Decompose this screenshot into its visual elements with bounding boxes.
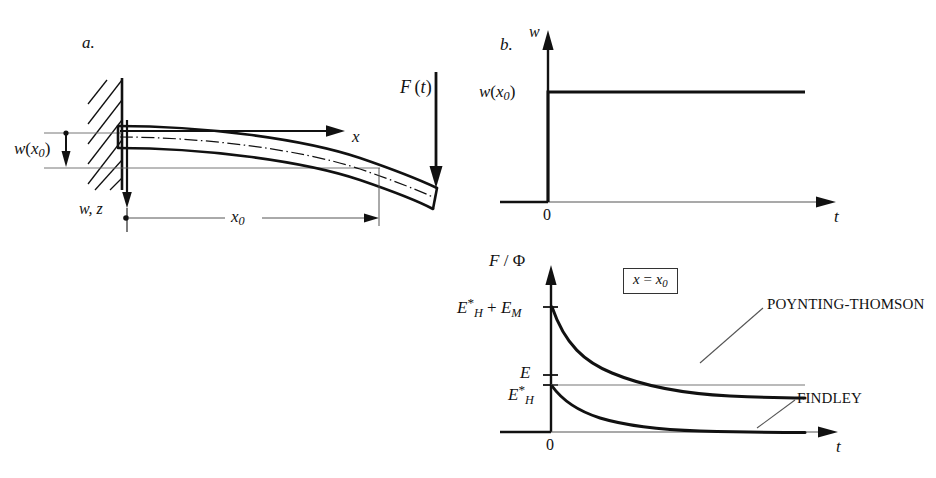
- panel-c-origin-label: 0: [546, 437, 554, 453]
- force-label-paren-open: (: [411, 77, 421, 97]
- panel-c-y-axis-label-phi: Φ: [513, 251, 525, 270]
- panel-c-curve-findley: [552, 386, 805, 433]
- deflection-arrow-head: [62, 151, 71, 167]
- panel-c-y-axis-label-slash: /: [499, 251, 512, 270]
- panel-c-tick-label-top: E*H + EM: [457, 296, 522, 319]
- x0-dim-label-x: x: [231, 207, 239, 226]
- panel-b-origin-label: 0: [543, 207, 551, 223]
- panel-a-force-label: F (t): [400, 78, 432, 96]
- force-label-F: F: [400, 77, 411, 97]
- panel-b-tag: b.: [500, 36, 513, 53]
- panel-c-x-axis-label: t: [836, 438, 841, 455]
- panel-b-drawing: [500, 30, 836, 208]
- panel-c-box-annotation: x = x0: [623, 268, 678, 294]
- x0-dim-origin-dot: [123, 215, 129, 221]
- tick-top-E2: E: [501, 298, 511, 317]
- panel-a-deflection-label: w(x0): [14, 140, 50, 160]
- panel-b-x-axis-arrowhead: [816, 196, 836, 207]
- panel-b-level-label-w: w: [479, 82, 490, 101]
- leader-line-findley: [757, 400, 795, 428]
- tick-low-E: E: [508, 385, 518, 404]
- panel-b-level-label-x: x: [496, 82, 504, 101]
- panel-c-y-axis-arrowhead: [545, 265, 556, 285]
- beam-upper-edge: [118, 126, 437, 188]
- beam-tip-cap: [433, 188, 437, 209]
- panel-b-y-axis-label: w: [529, 24, 540, 40]
- figure-vector-layer: [0, 0, 936, 478]
- panel-c-tick-label-mid: E: [520, 364, 530, 381]
- panel-c-curve-label-findley: FINDLEY: [797, 391, 862, 406]
- deflection-label-x: x: [31, 139, 39, 158]
- leader-line-poynting-thomson: [700, 308, 763, 363]
- panel-b-level-label: w(x0): [479, 83, 515, 103]
- x-axis-arrowhead: [326, 125, 345, 137]
- panel-b-y-axis-arrowhead: [542, 30, 553, 50]
- tick-top-sub-H: H: [474, 306, 483, 320]
- x0-dim-label-subscript: 0: [239, 214, 245, 228]
- tick-top-E: E: [457, 298, 467, 317]
- panel-c-y-axis-label-F: F: [489, 251, 499, 270]
- panel-a-wz-axis-label: w, z: [79, 201, 103, 217]
- x0-dim-arrowhead: [364, 214, 379, 223]
- panel-c-y-axis-label: F / Φ: [489, 252, 525, 269]
- deflection-label-paren-close: ): [45, 139, 51, 158]
- panel-a-tag: a.: [82, 34, 95, 51]
- tick-top-sub-M: M: [511, 306, 521, 320]
- panel-b-step-curve: [548, 92, 805, 202]
- tick-top-plus: +: [483, 298, 501, 317]
- panel-c-tick-label-low: E*H: [508, 383, 534, 406]
- deflection-ref-dot: [63, 130, 68, 135]
- panel-b-x-axis-label: t: [834, 208, 839, 225]
- force-label-paren-close: ): [426, 77, 432, 97]
- box-annotation-subscript: 0: [662, 277, 667, 289]
- figure-root: a. w(x0) w, z x F (t) x0 b. w t 0 w(x0) …: [0, 0, 936, 478]
- box-annotation-var: x: [633, 271, 640, 287]
- panel-c-x-axis-arrowhead: [818, 426, 838, 437]
- wz-axis-arrowhead: [122, 192, 132, 208]
- panel-c-curve-label-poynting-thomson: POYNTING-THOMSON: [767, 297, 924, 312]
- panel-a-x-axis-label: x: [352, 128, 360, 145]
- panel-a-x0-dimension-label: x0: [231, 208, 245, 228]
- tick-low-sub-H: H: [525, 393, 534, 407]
- panel-c-curve-poynting-thomson: [552, 307, 805, 398]
- deflection-label-w: w: [14, 139, 25, 158]
- box-annotation-equals: =: [640, 271, 656, 287]
- panel-b-level-paren-close: ): [510, 82, 516, 101]
